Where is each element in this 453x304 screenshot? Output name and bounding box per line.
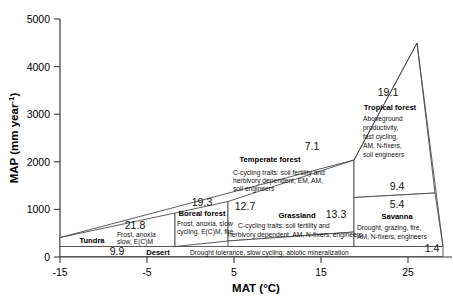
y-tick-label-0: 0 (44, 251, 50, 263)
desert-name: Desert (146, 248, 170, 257)
x-axis-title: MAT (°C) (232, 282, 280, 294)
biome-climate-diagram: 0 1000 2000 3000 4000 5000 MAP (mm year-… (0, 0, 453, 304)
x-tick-label--5: -5 (142, 266, 151, 278)
x-axis: -15 -5 5 15 25 MAT (°C) (52, 257, 452, 294)
y-axis-title-main: MAP (mm year (8, 103, 20, 183)
temperate-name: Temperate forest (239, 155, 301, 164)
savanna-value: 5.4 (390, 198, 405, 210)
desert-value: 9.9 (110, 245, 125, 257)
tropical-desc-line-5: soil engineers (363, 151, 405, 159)
savanna-name: Savanna (381, 212, 413, 221)
boreal-name: Boreal forest (179, 209, 226, 218)
y-tick-label-4000: 4000 (27, 61, 51, 73)
boreal-value: 19.3 (192, 196, 213, 208)
boreal-desc-line-1: Frost, anoxia, slow (177, 220, 233, 227)
desert-desc: Drought tolerance, slow cycling, abiotic… (190, 249, 349, 257)
y-axis-title: MAP (mm year-1) (7, 93, 20, 184)
temperate-desc-line-3: soil engineers (233, 185, 275, 193)
tropical-desc-line-1: Aboveground (363, 115, 403, 123)
temperate-desc-line-1: C-cycling traits: soil fertility and (233, 169, 325, 177)
temperate-desc-line-2: herbivory dependent, EM, AM, (233, 177, 323, 185)
desert-boundary-value: 1.4 (425, 242, 440, 254)
tundra-desc-line-1: Frost, anoxia (117, 231, 156, 238)
y-tick-label-5000: 5000 (27, 13, 51, 25)
y-tick-label-1000: 1000 (27, 203, 51, 215)
tundra-name: Tundra (79, 236, 105, 245)
savanna-desc-line-2: AM, N-fixers, engineers (357, 233, 428, 241)
y-axis: 0 1000 2000 3000 4000 5000 MAP (mm year-… (7, 13, 60, 263)
grassland-desc-line-2: herbivory dependent, AM, N-fixers, engin… (228, 231, 363, 239)
temperate-value: 12.7 (235, 200, 256, 212)
x-tick-label-25: 25 (402, 266, 414, 278)
y-axis-title-end: ) (8, 93, 20, 97)
tropical-value: 19.1 (378, 86, 399, 98)
savanna-desc-line-1: Drought, grazing, fire, (357, 224, 421, 232)
savanna-boundary-value: 9.4 (390, 180, 405, 192)
temperate-boundary-value: 7.1 (305, 140, 320, 152)
tropical-desc-line-4: AM, N-fixers, (363, 142, 402, 149)
grassland-value: 13.3 (326, 208, 347, 220)
x-tick-label-15: 15 (315, 266, 327, 278)
tropical-desc-line-2: productivity, (363, 124, 398, 132)
tropical-name: Tropical forest (364, 103, 417, 112)
y-tick-label-3000: 3000 (27, 108, 51, 120)
grassland-desc-line-1: C-cycling traits: soil fertility and (238, 222, 330, 230)
x-tick-label--15: -15 (52, 266, 67, 278)
y-tick-label-2000: 2000 (27, 156, 51, 168)
tropical-desc-line-3: fast cycling, (363, 133, 398, 141)
grassland-name: Grassland (278, 211, 316, 220)
boreal-desc-line-2: cycling, E(C)M, fire (177, 228, 234, 236)
svg-text:MAP (mm year-1): MAP (mm year-1) (7, 93, 20, 184)
tundra-value: 21.8 (125, 219, 146, 231)
x-tick-label-5: 5 (231, 266, 237, 278)
